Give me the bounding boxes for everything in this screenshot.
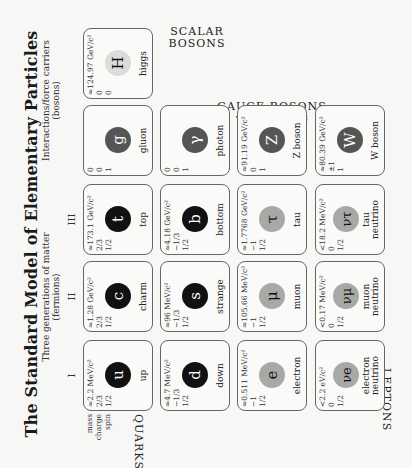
tau-neutrino-symbol: ντ: [333, 206, 359, 232]
particle-top[interactable]: ≈173.1 GeV/c²2/31/2 t top: [83, 184, 153, 255]
muon-neutrino-symbol: νμ: [333, 283, 359, 309]
particle-gluon[interactable]: 001 g gluon: [83, 105, 153, 176]
particle-tau[interactable]: ≈1.7768 GeV/c²−11/2 τ tau: [237, 184, 307, 255]
gluon-symbol: g: [105, 127, 131, 153]
particle-w-boson[interactable]: ≈80.39 GeV/c²±11 W W boson: [315, 105, 385, 176]
photon-symbol: γ: [182, 127, 208, 153]
strange-symbol: s: [182, 283, 208, 309]
electron-symbol: e: [259, 362, 285, 388]
particle-electron-neutrino[interactable]: <2.2 eV/c²01/2 νe electronneutrino: [315, 340, 385, 411]
particle-higgs[interactable]: ≈124.97 GeV/c²00 H higgs: [83, 28, 153, 99]
higgs-symbol: H: [105, 50, 131, 76]
particle-photon[interactable]: 001 γ photon: [160, 105, 230, 176]
top-symbol: t: [105, 206, 131, 232]
muon-symbol: μ: [259, 283, 285, 309]
bosons-caption: Interactions/force carriers (bosons): [41, 25, 61, 176]
electron-neutrino-symbol: νe: [333, 362, 359, 388]
particle-tau-neutrino[interactable]: <18.2 MeV/c²01/2 ντ tauneutrino: [315, 184, 385, 255]
particle-bottom[interactable]: ≈4.18 GeV/c²−1/31/2 b bottom: [160, 184, 230, 255]
generation-3-label: III: [66, 184, 77, 255]
generation-2-label: II: [66, 261, 77, 332]
quarks-label: QUARKS: [132, 414, 145, 464]
up-symbol: u: [105, 362, 131, 388]
particle-up[interactable]: ≈2.2 MeV/c²2/31/2 u up: [83, 340, 153, 411]
fermions-caption: Three generations of matter (fermions): [41, 183, 61, 411]
w-boson-symbol: W: [337, 127, 363, 153]
down-symbol: d: [182, 362, 208, 388]
page-title: The Standard Model of Elementary Particl…: [22, 0, 41, 468]
particle-down[interactable]: ≈4.7 MeV/c²−1/31/2 d down: [160, 340, 230, 411]
tau-symbol: τ: [259, 206, 285, 232]
particle-z-boson[interactable]: ≈91.19 GeV/c²01 Z Z boson: [237, 105, 307, 176]
generation-1-label: I: [66, 340, 77, 411]
z-boson-symbol: Z: [259, 127, 285, 153]
particle-electron[interactable]: ≈0.511 MeV/c²−11/2 e electron: [237, 340, 307, 411]
charm-symbol: c: [105, 283, 131, 309]
bottom-symbol: b: [182, 206, 208, 232]
standard-model-chart: The Standard Model of Elementary Particl…: [0, 0, 412, 468]
property-row-labels: mass charge spin: [85, 414, 112, 446]
scalar-bosons-label: SCALAR BOSONS: [157, 26, 237, 50]
particle-muon[interactable]: ≈105.66 MeV/c²−11/2 μ muon: [237, 261, 307, 332]
particle-muon-neutrino[interactable]: <0.17 MeV/c²01/2 νμ muonneutrino: [315, 261, 385, 332]
particle-strange[interactable]: ≈96 MeV/c²−1/31/2 s strange: [160, 261, 230, 332]
particle-charm[interactable]: ≈1.28 GeV/c²2/31/2 c charm: [83, 261, 153, 332]
